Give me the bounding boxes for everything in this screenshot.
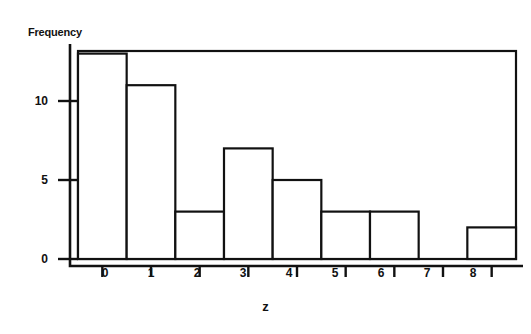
x-tick-marks <box>102 266 491 277</box>
histogram-bar <box>78 54 127 259</box>
histogram-bar <box>127 85 176 259</box>
plot-area <box>0 0 531 334</box>
histogram-bar <box>370 212 419 259</box>
histogram-figure: Frequency 0 5 10 0 1 2 3 4 5 6 7 8 z <box>0 0 531 334</box>
histogram-bar <box>224 148 273 259</box>
y-tick-marks <box>58 101 78 259</box>
histogram-bar <box>273 180 322 259</box>
histogram-bars <box>78 54 516 259</box>
histogram-bar <box>175 212 224 259</box>
histogram-bar <box>467 227 516 259</box>
histogram-bar <box>321 212 370 259</box>
